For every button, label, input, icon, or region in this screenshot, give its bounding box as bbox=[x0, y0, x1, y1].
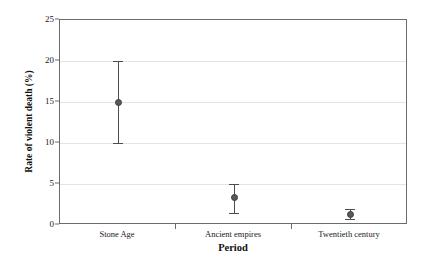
y-axis-tick-label: 10 bbox=[45, 138, 54, 147]
y-axis-title: Rate of violent death (%) bbox=[20, 19, 38, 224]
data-point-marker bbox=[347, 211, 354, 218]
y-axis-tick-label: 25 bbox=[45, 15, 54, 24]
error-bar-cap-lower bbox=[229, 213, 239, 214]
x-axis-tick-labels: Stone AgeAncient empiresTwentieth centur… bbox=[59, 230, 407, 242]
x-axis-category-label: Ancient empires bbox=[205, 230, 261, 239]
x-axis-title: Period bbox=[59, 243, 407, 254]
y-axis-tick-mark bbox=[55, 60, 59, 61]
error-bar-cap-lower bbox=[345, 219, 355, 220]
y-axis-tick-mark bbox=[55, 101, 59, 102]
x-axis-category-label: Stone Age bbox=[99, 230, 134, 239]
y-axis-tick-label: 20 bbox=[45, 56, 54, 65]
y-axis-tick-marks bbox=[59, 19, 60, 224]
data-point-marker bbox=[231, 194, 238, 201]
data-point-marker bbox=[115, 99, 122, 106]
error-bar-cap-upper bbox=[229, 184, 239, 185]
gridline bbox=[60, 143, 406, 144]
y-axis-tick-label: 15 bbox=[45, 97, 54, 106]
x-axis-tick-mark bbox=[291, 224, 292, 229]
x-axis-category-label: Twentieth century bbox=[318, 230, 379, 239]
error-bar-cap-lower bbox=[113, 143, 123, 144]
y-axis-tick-label: 0 bbox=[50, 220, 55, 229]
y-axis-tick-mark bbox=[55, 19, 59, 20]
x-axis-tick-mark bbox=[175, 224, 176, 229]
gridline bbox=[60, 61, 406, 62]
plot-area bbox=[59, 19, 407, 224]
y-axis-tick-label: 5 bbox=[50, 179, 55, 188]
gridline bbox=[60, 102, 406, 103]
error-bar-cap-upper bbox=[113, 61, 123, 62]
y-axis-tick-mark bbox=[55, 183, 59, 184]
chart-figure: 0510152025 Rate of violent death (%) Sto… bbox=[0, 0, 440, 265]
y-axis-tick-mark bbox=[55, 142, 59, 143]
